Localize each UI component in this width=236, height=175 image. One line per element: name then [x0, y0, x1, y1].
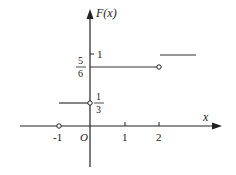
- open-point-neg1: [57, 124, 61, 128]
- y-label-five-sixth-num: 5: [78, 55, 83, 66]
- x-axis-label: x: [202, 110, 209, 124]
- origin-label: O: [80, 131, 88, 143]
- cdf-diagram: F(x) x O -1 1 2 1 5 6 1 3: [0, 0, 236, 175]
- y-label-five-sixth-den: 6: [78, 68, 83, 79]
- y-tick-label-1: 1: [97, 48, 103, 60]
- open-point-2: [157, 65, 161, 69]
- open-point-0: [88, 101, 92, 105]
- x-axis-arrow-icon: [212, 123, 222, 130]
- x-tick-label-2: 2: [156, 131, 162, 143]
- y-axis-arrow-icon: [87, 9, 94, 19]
- y-axis-label: F(x): [95, 6, 117, 20]
- x-tick-label-neg1: -1: [53, 131, 62, 143]
- x-tick-label-1: 1: [122, 131, 128, 143]
- y-label-one-third-den: 3: [96, 104, 101, 115]
- y-label-one-third-num: 1: [96, 91, 101, 102]
